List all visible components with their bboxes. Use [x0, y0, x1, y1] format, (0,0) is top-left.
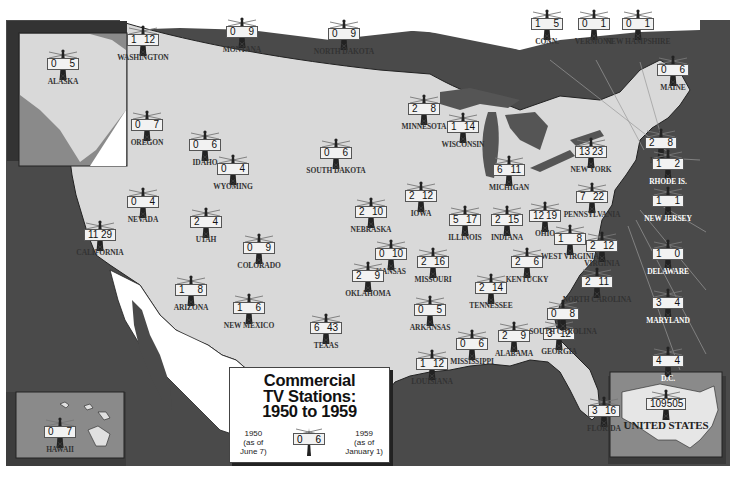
- legend-left-note1: (as of: [240, 438, 267, 447]
- count-1959: 7: [153, 120, 159, 130]
- count-1959: 1: [644, 19, 650, 29]
- station-counts: 06: [456, 338, 488, 350]
- count-1950: 13: [579, 147, 590, 157]
- state-marker-arkansas: 05ARKANSAS: [408, 294, 452, 338]
- count-1959: 16: [605, 406, 616, 416]
- count-1950: 2: [356, 271, 362, 281]
- count-1959: 19: [546, 211, 557, 221]
- state-label: WYOMING: [213, 183, 252, 191]
- state-label: ALABAMA: [495, 350, 533, 358]
- count-1950: 1: [656, 249, 662, 259]
- count-1959: 16: [434, 257, 445, 267]
- legend-box: Commercial TV Stations: 1950 to 1959 195…: [229, 367, 390, 463]
- station-counts: 07: [44, 426, 76, 438]
- state-label: ALASKA: [48, 78, 79, 86]
- legend-left-note: 1950 (as of June 7): [240, 429, 267, 456]
- state-label: NORTH DAKOTA: [314, 48, 374, 56]
- count-1950: 1: [656, 159, 662, 169]
- count-1959: 8: [667, 138, 673, 148]
- count-1950: 2: [412, 104, 418, 114]
- state-label: CALIFORNIA: [76, 249, 123, 257]
- count-1959: 14: [492, 283, 503, 293]
- state-marker-florida: 316FLORIDA: [582, 395, 626, 439]
- count-1950: 3: [592, 406, 598, 416]
- station-counts: 112: [127, 34, 159, 46]
- count-1950: 0: [131, 197, 137, 207]
- count-1959: 8: [197, 285, 203, 295]
- count-1950: 1: [237, 303, 243, 313]
- state-marker-california: 1129CALIFORNIA: [78, 219, 122, 263]
- count-1950: 2: [649, 138, 655, 148]
- count-1950: 3: [656, 298, 662, 308]
- station-counts: 1323: [575, 146, 607, 158]
- count-1950: 2: [421, 257, 427, 267]
- map-stage: 112WASHINGTON07OREGON06IDAHO09MONTANA09N…: [0, 0, 733, 478]
- state-marker-louisiana: 112LOUISIANA: [410, 348, 454, 392]
- state-label: SOUTH CAROLINA: [529, 328, 597, 336]
- state-label: LOUISIANA: [411, 378, 453, 386]
- state-marker-d-c: 44D.C.: [646, 345, 690, 389]
- station-counts: 15: [531, 18, 563, 30]
- count-1959: 17: [466, 215, 477, 225]
- state-marker-south-dakota: 06SOUTH DAKOTA: [314, 137, 358, 181]
- station-counts: 04: [127, 196, 159, 208]
- count-1950: 2: [359, 207, 365, 217]
- station-counts: 05: [47, 58, 79, 70]
- station-counts: 1219: [529, 210, 561, 222]
- count-1959: 9: [350, 29, 356, 39]
- station-counts: 09: [328, 28, 360, 40]
- state-marker-hawaii: 07HAWAII: [38, 416, 82, 460]
- station-counts: 24: [190, 216, 222, 228]
- count-1950: 1: [656, 196, 662, 206]
- station-counts: 010: [375, 248, 407, 260]
- state-label: GEORGIA: [541, 348, 577, 356]
- count-1959: 9: [374, 271, 380, 281]
- count-1950: 1: [535, 19, 541, 29]
- count-1950: 0: [379, 249, 385, 259]
- count-1959: 7: [66, 427, 72, 437]
- count-1959: 9: [248, 27, 254, 37]
- count-1959: 5: [436, 305, 442, 315]
- state-label: ARKANSAS: [410, 324, 450, 332]
- station-counts: 722: [576, 191, 608, 203]
- state-marker-wyoming: 04WYOMING: [211, 153, 255, 197]
- count-1959: 4: [674, 356, 680, 366]
- count-1950: 2: [515, 257, 521, 267]
- state-label: NEW MEXICO: [224, 322, 274, 330]
- count-1950: 0: [551, 309, 557, 319]
- count-1950: 0: [332, 29, 338, 39]
- count-1950: 12: [533, 211, 544, 221]
- state-marker-north-dakota: 09NORTH DAKOTA: [322, 18, 366, 62]
- count-1959: 6: [679, 65, 685, 75]
- station-counts: 1129: [84, 229, 116, 241]
- us-count-1959: 505: [667, 399, 684, 409]
- state-label: NEW YORK: [570, 166, 611, 174]
- state-label: KENTUCKY: [506, 276, 549, 284]
- state-label: IOWA: [411, 210, 431, 218]
- station-counts: 06: [320, 147, 352, 159]
- count-1959: 1: [674, 196, 680, 206]
- station-counts: 05: [414, 304, 446, 316]
- count-1950: 2: [590, 241, 596, 251]
- state-label: FLORIDA: [587, 425, 621, 433]
- state-label: SOUTH DAKOTA: [306, 167, 365, 175]
- count-1959: 6: [533, 257, 539, 267]
- legend-right-note: 1959 (as of January 1): [345, 429, 383, 456]
- chart-title: Commercial TV Stations: 1950 to 1959: [230, 373, 389, 420]
- station-counts: 18: [175, 284, 207, 296]
- state-marker-delaware: 10DELAWARE: [646, 238, 690, 282]
- count-1959: 12: [433, 359, 444, 369]
- state-label: PENNSYLVANIA: [564, 211, 621, 219]
- station-counts: 09: [226, 26, 258, 38]
- station-counts: 26: [511, 256, 543, 268]
- state-label: INDIANA: [491, 234, 523, 242]
- us-count-1950: 109: [650, 399, 667, 409]
- legend-right-year: 1959: [345, 429, 383, 438]
- count-1950: 1: [131, 35, 137, 45]
- us-total-marker: 109505UNITED STATES: [644, 388, 688, 432]
- count-1959: 9: [265, 243, 271, 253]
- count-1950: 0: [626, 19, 632, 29]
- state-label: HAWAII: [46, 446, 74, 454]
- count-1959: 5: [69, 59, 75, 69]
- station-counts: 29: [498, 330, 530, 342]
